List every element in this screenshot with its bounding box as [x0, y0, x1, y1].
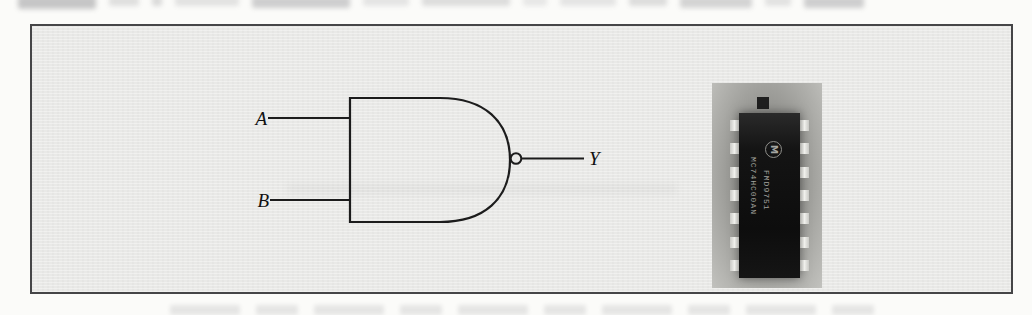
inversion-bubble	[511, 153, 522, 164]
input-a-label: A	[253, 108, 267, 129]
nand-gate-body	[350, 98, 510, 222]
output-label: Y	[589, 148, 602, 169]
input-b-label: B	[257, 190, 269, 211]
